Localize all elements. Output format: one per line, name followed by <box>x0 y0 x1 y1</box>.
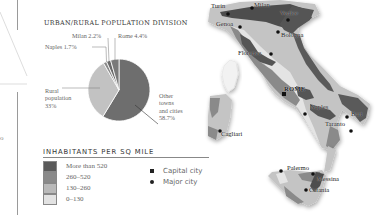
column-divider <box>17 92 18 215</box>
city-label-bologna: Bologna <box>281 31 303 38</box>
capital-square-icon <box>150 169 154 173</box>
city-dot-icon <box>150 180 154 184</box>
marker-genoa <box>238 25 242 29</box>
marker-palermo <box>279 169 283 173</box>
corsica <box>222 60 238 92</box>
city-label-turin: Turin <box>211 2 225 9</box>
density-swatches <box>43 161 57 205</box>
marker-bologna <box>276 30 280 34</box>
city-label-rome: ROME <box>284 85 305 92</box>
swatch-260-520 <box>43 172 57 183</box>
legend-label-more-than-520: More than 520 <box>66 162 107 170</box>
city-label-genoa: Genoa <box>216 20 233 27</box>
pie-label-other-towns: Other towns and cities 58.7% <box>159 92 183 122</box>
city-label-venice: Venice <box>280 9 298 16</box>
marker-florence <box>269 52 273 56</box>
pie-label-milan: Milan 2.2% <box>72 32 101 39</box>
city-label-naples: Naples <box>310 103 328 110</box>
pie-chart-title: URBAN/RURAL POPULATION DIVISION <box>44 19 188 27</box>
marker-turin <box>226 12 230 16</box>
city-label-messina: Messina <box>317 175 339 182</box>
legend-label-0-130: 0–130 <box>66 195 84 203</box>
legend-label-260-520: 260–520 <box>66 173 91 181</box>
city-label-florence: Florence <box>238 49 261 56</box>
marker-bari <box>345 115 349 119</box>
city-label-bari: Bari <box>351 110 362 117</box>
city-label-palermo: Palermo <box>287 164 309 171</box>
city-label-taranto: Taranto <box>325 120 345 127</box>
marker-naples <box>303 112 307 116</box>
marker-messina <box>311 172 315 176</box>
marker-rome <box>282 92 286 96</box>
swatch-130-260 <box>43 183 57 194</box>
swatch-more-than-520 <box>43 161 57 172</box>
column-divider-top <box>17 0 18 30</box>
city-label-milan: Milan <box>254 1 270 8</box>
adjacent-page-fragment: o <box>0 0 40 221</box>
svg-text:o: o <box>0 134 4 142</box>
city-label-cagliari: Cagliari <box>221 130 242 137</box>
pie-label-rome: Rome 4.4% <box>118 32 147 39</box>
swatch-0-130 <box>43 194 57 205</box>
pie-label-naples: Naples 1.7% <box>45 43 77 50</box>
legend-label-130-260: 130–260 <box>66 184 91 192</box>
pie-label-rural: Rural population 33% <box>45 87 71 109</box>
city-label-catania: Catania <box>309 186 329 193</box>
marker-catania <box>304 188 308 192</box>
marker-venice <box>286 18 290 22</box>
marker-taranto <box>349 129 353 133</box>
legend-title: INHABITANTS PER SQ MILE <box>43 148 154 156</box>
